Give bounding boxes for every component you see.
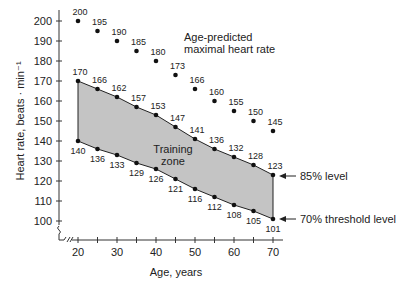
- 70-level-label: 70% threshold level: [300, 213, 396, 225]
- data-label: 200: [72, 7, 87, 17]
- data-point: [212, 99, 217, 104]
- x-tick-label: 70: [267, 246, 279, 258]
- data-label: 180: [150, 47, 165, 57]
- data-point: [232, 155, 237, 160]
- data-point: [271, 129, 276, 134]
- 85-level-label: 85% level: [300, 170, 348, 182]
- data-point: [271, 217, 276, 222]
- data-point: [173, 73, 178, 78]
- y-tick-label: 170: [34, 75, 52, 87]
- data-label: 157: [131, 93, 146, 103]
- data-label: 101: [265, 224, 280, 234]
- data-point: [95, 87, 100, 92]
- max-hr-label-line1: Age-predicted: [184, 31, 253, 43]
- data-point: [251, 163, 256, 168]
- data-point: [95, 29, 100, 34]
- y-axis-label: Heart rate, beats · min⁻¹: [14, 61, 26, 180]
- data-point: [134, 105, 139, 110]
- data-label: 136: [209, 135, 224, 145]
- data-point: [212, 195, 217, 200]
- data-point: [251, 119, 256, 124]
- arrow-70-icon: [279, 216, 296, 222]
- data-label: 166: [92, 75, 107, 85]
- training-zone-label-line2: zone: [161, 155, 185, 167]
- data-label: 112: [207, 202, 221, 212]
- data-label: 123: [267, 161, 282, 171]
- y-tick-label: 100: [34, 215, 52, 227]
- data-point: [76, 79, 81, 84]
- x-tick-label: 50: [189, 246, 201, 258]
- data-label: 173: [170, 61, 185, 71]
- x-axis-label: Age, years: [150, 266, 203, 278]
- data-label: 155: [228, 97, 243, 107]
- data-point: [193, 187, 198, 192]
- data-point: [232, 203, 237, 208]
- data-label: 195: [92, 17, 107, 27]
- data-point: [154, 113, 159, 118]
- data-point: [76, 19, 81, 24]
- data-point: [76, 139, 81, 144]
- y-tick-label: 140: [34, 135, 52, 147]
- data-label: 128: [248, 151, 263, 161]
- x-tick-label: 60: [228, 246, 240, 258]
- data-point: [154, 167, 159, 172]
- data-label: 153: [150, 101, 165, 111]
- data-label: 108: [226, 210, 241, 220]
- data-point: [95, 147, 100, 152]
- data-point: [193, 137, 198, 142]
- max-hr-label-line2: maximal heart rate: [184, 43, 275, 55]
- y-tick-label: 160: [34, 95, 52, 107]
- y-tick-label: 200: [34, 15, 52, 27]
- data-label: 132: [228, 143, 243, 153]
- data-point: [134, 49, 139, 54]
- heart-rate-chart: 1001101201301401501601701801902002030405…: [0, 0, 408, 293]
- data-label: 160: [209, 87, 224, 97]
- data-point: [271, 173, 276, 178]
- data-label: 190: [111, 27, 126, 37]
- y-tick-label: 110: [34, 195, 52, 207]
- y-tick-label: 130: [34, 155, 52, 167]
- data-label: 140: [70, 146, 85, 156]
- data-point: [134, 161, 139, 166]
- data-point: [115, 39, 120, 44]
- data-point: [251, 209, 256, 214]
- data-point: [232, 109, 237, 114]
- data-point: [212, 147, 217, 152]
- data-point: [115, 153, 120, 158]
- data-label: 150: [248, 107, 263, 117]
- data-label: 116: [188, 194, 202, 204]
- data-label: 147: [170, 113, 185, 123]
- arrow-85-icon: [279, 173, 296, 179]
- data-point: [115, 95, 120, 100]
- data-label: 121: [168, 184, 183, 194]
- data-label: 105: [246, 216, 261, 226]
- data-label: 126: [148, 174, 163, 184]
- data-label: 145: [267, 117, 282, 127]
- y-tick-label: 120: [34, 175, 52, 187]
- training-zone-label-line1: Training: [153, 143, 192, 155]
- y-tick-label: 150: [34, 115, 52, 127]
- x-tick-label: 30: [111, 246, 123, 258]
- x-tick-label: 40: [150, 246, 162, 258]
- y-tick-label: 180: [34, 55, 52, 67]
- data-label: 136: [90, 154, 105, 164]
- data-label: 141: [189, 125, 204, 135]
- data-label: 166: [189, 75, 204, 85]
- data-point: [193, 87, 198, 92]
- y-tick-label: 190: [34, 35, 52, 47]
- data-point: [154, 59, 159, 64]
- data-label: 133: [109, 160, 124, 170]
- x-tick-label: 20: [72, 246, 84, 258]
- data-point: [173, 177, 178, 182]
- data-label: 185: [131, 37, 146, 47]
- data-label: 129: [129, 168, 144, 178]
- data-point: [173, 125, 178, 130]
- data-label: 170: [72, 67, 87, 77]
- data-label: 162: [111, 83, 126, 93]
